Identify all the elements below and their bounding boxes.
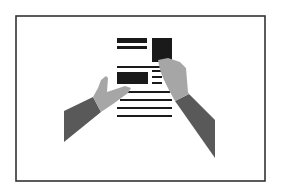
text-line <box>152 82 162 84</box>
text-line <box>117 38 147 43</box>
text-line <box>117 46 147 49</box>
right-sleeve <box>175 94 215 158</box>
text-line <box>124 91 170 93</box>
text-line <box>117 72 148 84</box>
right-hand-icon <box>158 58 189 101</box>
left-sleeve <box>64 97 101 142</box>
newspaper-illustration <box>0 0 282 189</box>
text-line <box>120 99 172 101</box>
text-line <box>152 76 162 78</box>
text-line <box>117 115 172 117</box>
text-line <box>117 107 172 109</box>
